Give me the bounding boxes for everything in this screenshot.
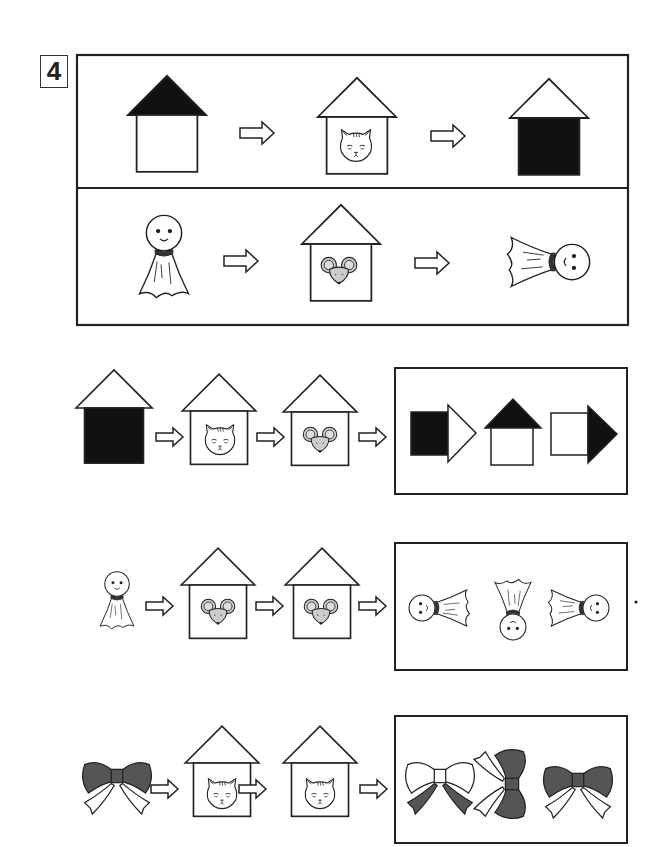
stray-dot — [634, 600, 637, 603]
arrow-icon — [431, 125, 465, 147]
example-cat-house — [318, 78, 396, 174]
example-house-black-body — [510, 79, 588, 175]
question-row-2 — [100, 548, 386, 638]
mouse-house — [283, 375, 357, 465]
puzzle-canvas — [0, 0, 660, 847]
example-panel — [77, 55, 628, 325]
answer-box-3 — [395, 716, 627, 843]
choice-black-square-white-arrow[interactable] — [411, 405, 476, 462]
cat-house — [283, 726, 357, 816]
question-row-1 — [76, 370, 386, 465]
choice-ribbon-rotated[interactable] — [474, 750, 525, 819]
arrow-icon — [224, 250, 258, 272]
arrow-icon — [240, 122, 274, 144]
mouse-house — [181, 548, 255, 638]
choice-house-black-roof[interactable] — [485, 399, 541, 465]
choice-white-square-black-arrow[interactable] — [551, 406, 617, 463]
answer-box-1 — [395, 368, 627, 494]
example-house-black-roof — [128, 76, 206, 172]
answer-box-2 — [395, 543, 627, 670]
question-row-3 — [83, 726, 387, 816]
cat-house — [185, 726, 259, 816]
choice-teru-upside-down[interactable] — [495, 579, 531, 639]
example-mouse-house — [302, 205, 380, 301]
example-teru-teru-bozu-upright — [140, 215, 189, 297]
choice-ribbon-dark-bow[interactable] — [544, 767, 613, 818]
mouse-house — [285, 548, 359, 638]
arrow-icon — [415, 252, 449, 274]
choice-teru-head-left[interactable] — [409, 590, 469, 626]
example-teru-teru-bozu-rotated — [507, 238, 589, 287]
cat-house — [182, 374, 256, 464]
choice-teru-head-right[interactable] — [548, 590, 608, 626]
choice-ribbon-white-bow[interactable] — [406, 763, 475, 814]
